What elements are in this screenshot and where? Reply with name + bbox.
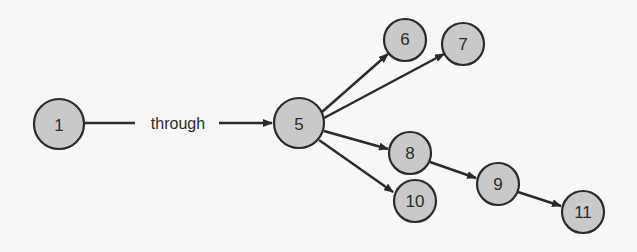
- flow-diagram: through 1 5 6 7 8 10 9 11: [0, 0, 637, 252]
- svg-text:7: 7: [458, 35, 467, 54]
- node-9: 9: [477, 163, 519, 205]
- node-11: 11: [562, 191, 604, 233]
- svg-text:11: 11: [574, 203, 592, 222]
- edge-8-to-9-arrow: [430, 162, 476, 178]
- edge-5-to-7-arrow: [324, 54, 444, 118]
- node-8: 8: [389, 132, 431, 174]
- node-5: 5: [274, 98, 324, 148]
- node-6: 6: [384, 19, 426, 61]
- svg-text:1: 1: [54, 116, 63, 135]
- node-1: 1: [34, 99, 84, 149]
- node-10: 10: [394, 180, 436, 222]
- edge-5-to-8-arrow: [324, 131, 388, 149]
- svg-text:5: 5: [294, 115, 303, 134]
- svg-text:8: 8: [405, 144, 414, 163]
- node-7: 7: [442, 23, 484, 65]
- svg-text:10: 10: [406, 192, 425, 211]
- through-label: through: [151, 115, 205, 132]
- svg-text:6: 6: [400, 30, 409, 49]
- edge-9-to-11-arrow: [518, 192, 561, 206]
- edge-5-to-6-arrow: [322, 54, 388, 112]
- svg-text:9: 9: [493, 175, 502, 194]
